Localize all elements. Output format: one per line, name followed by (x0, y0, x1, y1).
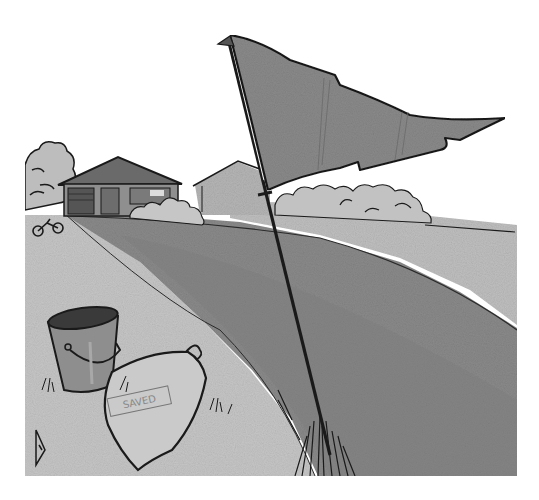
illustration: SAVED (0, 0, 539, 500)
